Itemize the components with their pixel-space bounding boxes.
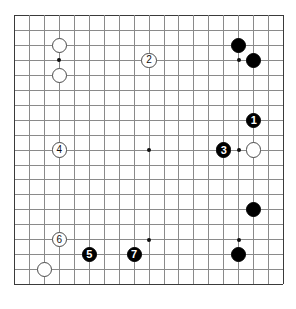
stone-move-number: 7 xyxy=(131,249,137,260)
stone-white[interactable] xyxy=(37,262,52,277)
grid-line-vertical xyxy=(74,15,75,284)
grid-line-vertical xyxy=(119,15,120,284)
stone-white-move-2[interactable]: 2 xyxy=(141,53,156,68)
stone-black[interactable] xyxy=(246,202,261,217)
grid-line-vertical xyxy=(164,15,165,284)
go-diagram: 1234657 xyxy=(0,0,296,309)
star-point xyxy=(237,58,241,62)
grid-line-vertical xyxy=(29,15,30,284)
star-point xyxy=(147,238,151,242)
star-point xyxy=(237,238,241,242)
stone-move-number: 5 xyxy=(86,249,92,260)
grid-line-vertical xyxy=(89,15,90,284)
grid-line-vertical xyxy=(283,15,284,284)
grid-line-horizontal xyxy=(14,284,283,285)
grid-line-vertical xyxy=(208,15,209,284)
stone-move-number: 6 xyxy=(57,234,63,244)
stone-black-move-7[interactable]: 7 xyxy=(127,247,142,262)
stone-white-move-6[interactable]: 6 xyxy=(52,232,67,247)
grid-line-vertical xyxy=(193,15,194,284)
star-point xyxy=(147,148,151,152)
star-point xyxy=(237,148,241,152)
stone-move-number: 3 xyxy=(221,144,227,155)
grid-line-vertical xyxy=(178,15,179,284)
grid-line-vertical xyxy=(104,15,105,284)
stone-black-move-5[interactable]: 5 xyxy=(82,247,97,262)
stone-white-move-4[interactable]: 4 xyxy=(52,142,67,157)
grid-line-vertical xyxy=(134,15,135,284)
stone-black[interactable] xyxy=(231,38,246,53)
grid-line-vertical xyxy=(14,15,15,284)
stone-white[interactable] xyxy=(52,68,67,83)
star-point xyxy=(57,58,61,62)
stone-black-move-1[interactable]: 1 xyxy=(246,113,261,128)
stone-white[interactable] xyxy=(246,142,261,157)
grid-line-vertical xyxy=(44,15,45,284)
stone-black[interactable] xyxy=(246,53,261,68)
stone-black-move-3[interactable]: 3 xyxy=(216,142,231,157)
stone-white[interactable] xyxy=(52,38,67,53)
stone-move-number: 4 xyxy=(57,145,63,155)
stone-move-number: 2 xyxy=(146,55,152,65)
stone-black[interactable] xyxy=(231,247,246,262)
stone-move-number: 1 xyxy=(251,114,257,125)
grid-line-vertical xyxy=(268,15,269,284)
go-board[interactable]: 1234657 xyxy=(12,13,285,286)
